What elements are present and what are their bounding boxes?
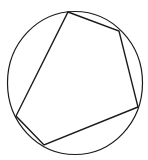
inscribed-pentagon [16,12,138,145]
diagram-canvas [0,0,148,160]
inscribed-pentagon-diagram [0,0,148,160]
